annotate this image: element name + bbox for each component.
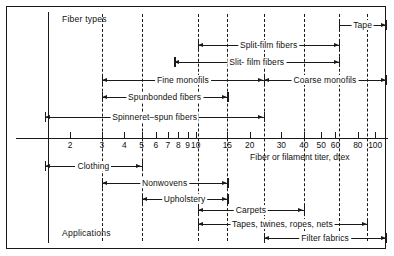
figure-container: Fiber types Applications 234567891015203… <box>0 0 394 256</box>
range-cap-left-3 <box>102 75 103 85</box>
range-cap-right-9 <box>227 194 228 204</box>
range-arrow-right-0 <box>381 23 386 27</box>
x-tick-10 <box>196 132 197 138</box>
range-label-clothing: Clothing <box>75 161 111 171</box>
x-tick-label-8: 8 <box>176 140 181 150</box>
x-tick-label-60: 60 <box>331 140 340 150</box>
x-tick-4 <box>124 132 125 138</box>
range-cap-right-2 <box>339 57 340 67</box>
range-cap-right-12 <box>386 233 387 243</box>
range-arrow-right-1 <box>334 43 339 47</box>
guide-line-90 <box>367 14 368 241</box>
x-tick-9 <box>188 132 189 138</box>
range-cap-left-1 <box>198 40 199 50</box>
range-cap-right-8 <box>227 178 228 188</box>
x-tick-30 <box>281 132 282 138</box>
x-tick-label-15: 15 <box>223 140 232 150</box>
x-tick-5 <box>142 132 143 138</box>
x-tick-label-30: 30 <box>277 140 286 150</box>
range-cap-right-7 <box>142 161 143 171</box>
x-axis-title: Fiber or filament titer, dtex <box>250 152 349 162</box>
range-arrow-right-5 <box>222 95 227 99</box>
x-tick-label-40: 40 <box>299 140 308 150</box>
range-label-slit-film-fibers: Slit- film fibers <box>227 57 286 67</box>
x-tick-40 <box>304 132 305 138</box>
range-arrow-right-9 <box>222 197 227 201</box>
x-tick-label-6: 6 <box>154 140 159 150</box>
guide-line-5 <box>142 14 143 241</box>
range-label-spunbonded-fibers: Spunbonded fibers <box>126 92 203 102</box>
range-arrow-right-6 <box>258 115 263 119</box>
range-arrow-right-12 <box>381 236 386 240</box>
range-arrow-right-8 <box>222 181 227 185</box>
x-tick-label-9: 9 <box>185 140 190 150</box>
range-label-filter-fabrics: Filter fabrics <box>299 233 351 243</box>
range-cap-left-5 <box>102 92 103 102</box>
range-cap-right-0 <box>386 20 387 30</box>
range-cap-left-4 <box>264 75 265 85</box>
x-tick-8 <box>178 132 179 138</box>
x-tick-label-50: 50 <box>317 140 326 150</box>
x-tick-7 <box>168 132 169 138</box>
range-cap-left-10 <box>198 205 199 215</box>
range-arrow-right-11 <box>362 222 367 226</box>
range-cap-right-4 <box>386 75 387 85</box>
x-tick-label-7: 7 <box>166 140 171 150</box>
range-label-spinneret-spun-fibers: Spinneret–spun fibers <box>110 112 199 122</box>
range-cap-right-6 <box>264 112 265 122</box>
x-tick-label-20: 20 <box>245 140 254 150</box>
range-label-fine-monofils: Fine monofils <box>155 75 211 85</box>
x-tick-3 <box>102 132 103 138</box>
x-tick-label-80: 80 <box>353 140 362 150</box>
range-arrow-right-2 <box>334 60 339 64</box>
range-arrow-right-10 <box>298 208 303 212</box>
range-label-split-film-fibers: Split-film fibers <box>238 40 299 50</box>
x-tick-60 <box>335 132 336 138</box>
range-arrow-right-7 <box>136 164 141 168</box>
range-cap-left-11 <box>198 219 199 229</box>
x-tick-100 <box>375 132 376 138</box>
x-tick-80 <box>358 132 359 138</box>
range-cap-right-5 <box>227 92 228 102</box>
range-arrow-right-3 <box>258 78 263 82</box>
x-tick-20 <box>250 132 251 138</box>
x-tick-2 <box>70 132 71 138</box>
range-arrow-right-4 <box>381 78 386 82</box>
plot-layer: 234567891015203040506080100Fiber or fila… <box>0 0 394 256</box>
range-label-coarse-monofils: Coarse monofils <box>292 75 359 85</box>
range-cap-right-1 <box>339 40 340 50</box>
x-tick-label-2: 2 <box>68 140 73 150</box>
range-cap-right-10 <box>304 205 305 215</box>
range-cap-left-12 <box>264 233 265 243</box>
range-label-tape: Tape <box>351 20 374 30</box>
range-cap-left-2 <box>174 57 175 67</box>
range-cap-left-8 <box>102 178 103 188</box>
x-tick-15 <box>227 132 228 138</box>
guide-line-3 <box>102 14 103 241</box>
x-tick-label-4: 4 <box>122 140 127 150</box>
x-tick-label-10: 10 <box>191 140 200 150</box>
range-cap-left-9 <box>142 194 143 204</box>
x-tick-50 <box>321 132 322 138</box>
range-label-nonwovens: Nonwovens <box>140 178 189 188</box>
x-tick-label-3: 3 <box>99 140 104 150</box>
guide-line-15 <box>227 14 228 241</box>
x-tick-label-100: 100 <box>368 140 382 150</box>
range-cap-right-11 <box>367 219 368 229</box>
x-tick-6 <box>156 132 157 138</box>
range-cap-left-6 <box>45 112 46 122</box>
range-cap-left-0 <box>339 20 340 30</box>
range-cap-left-7 <box>45 161 46 171</box>
range-label-carpets: Carpets <box>234 205 268 215</box>
range-label-tapes-twines-ropes-nets: Tapes, twines, ropes, nets <box>230 219 335 229</box>
range-label-upholstery: Upholstery <box>162 194 208 204</box>
x-tick-label-5: 5 <box>139 140 144 150</box>
